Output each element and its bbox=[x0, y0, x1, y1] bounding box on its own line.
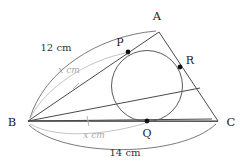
geometry-canvas: A B C P Q R 12 cm x cm x cm 14 cm bbox=[0, 0, 246, 165]
vertex-label-c: C bbox=[227, 115, 236, 129]
tangency-point-p bbox=[126, 50, 131, 55]
point-label-p: P bbox=[116, 36, 124, 49]
measure-label-bc: 14 cm bbox=[110, 147, 142, 158]
tangency-point-q bbox=[145, 119, 150, 124]
point-label-r: R bbox=[186, 54, 195, 67]
incircle bbox=[112, 51, 183, 122]
point-label-q: Q bbox=[142, 127, 151, 140]
measure-label-ab: 12 cm bbox=[41, 42, 73, 53]
measure-label-bp: x cm bbox=[58, 65, 80, 75]
arc-measure-bc bbox=[29, 124, 216, 150]
vertex-label-b: B bbox=[8, 115, 16, 129]
tangency-point-r bbox=[178, 65, 183, 70]
vertex-label-a: A bbox=[152, 9, 162, 23]
segment-ca bbox=[159, 32, 218, 121]
geometry-figure: A B C P Q R 12 cm x cm x cm 14 cm bbox=[0, 0, 246, 165]
segment-br bbox=[28, 88, 200, 121]
measure-label-bq: x cm bbox=[83, 130, 105, 140]
